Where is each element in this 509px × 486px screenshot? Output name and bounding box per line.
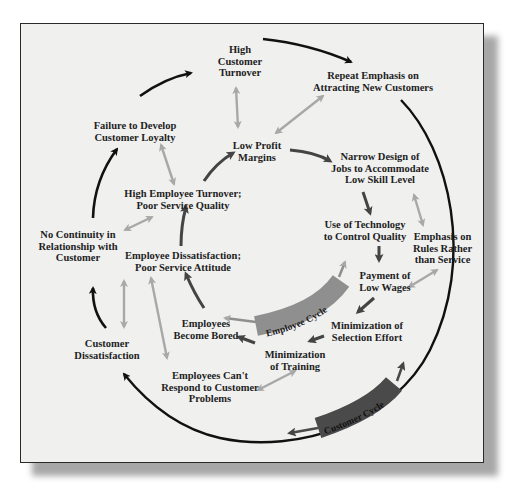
- node-employee-dissatisfaction: Employee Dissatisfaction; Poor Service A…: [108, 250, 258, 273]
- node-low-profit-margins: Low Profit Margins: [222, 140, 292, 163]
- node-failure-loyalty: Failure to Develop Customer Loyalty: [80, 120, 190, 143]
- node-customer-dissatisfaction: Customer Dissatisfaction: [62, 338, 152, 361]
- node-minimization-training: Minimization of Training: [255, 349, 335, 372]
- node-high-employee-turnover: High Employee Turnover; Poor Service Qua…: [113, 188, 253, 211]
- node-emphasis-rules: Emphasis on Rules Rather than Service: [400, 231, 485, 266]
- node-payment-low-wages: Payment of Low Wages: [350, 270, 420, 293]
- node-narrow-design: Narrow Design of Jobs to Accommodate Low…: [320, 151, 440, 186]
- node-minimization-selection: Minimization of Selection Effort: [322, 320, 412, 343]
- node-repeat-emphasis: Repeat Emphasis on Attracting New Custom…: [298, 70, 448, 93]
- node-high-customer-turnover: High Customer Turnover: [195, 44, 285, 79]
- node-employees-cant-respond: Employees Can't Respond to Customer Prob…: [150, 370, 270, 405]
- node-employees-bored: Employees Become Bored: [166, 318, 246, 341]
- customer-cycle-banner: Customer Cycle: [290, 364, 403, 436]
